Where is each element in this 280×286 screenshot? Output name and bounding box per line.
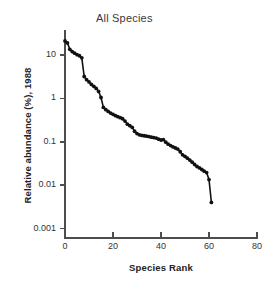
data-point <box>123 119 127 123</box>
data-point <box>97 90 101 94</box>
data-point <box>82 75 86 79</box>
rank-abundance-chart: All Species Relative abundance (%), 1988… <box>0 0 280 286</box>
series-markers-all-species <box>63 39 213 204</box>
data-point <box>66 41 70 45</box>
data-point <box>99 96 103 100</box>
data-point <box>178 150 182 154</box>
data-point <box>205 171 209 175</box>
data-point <box>130 125 134 129</box>
data-point <box>207 178 211 182</box>
series-line-all-species <box>65 41 211 202</box>
data-series-layer <box>0 0 280 286</box>
data-point <box>94 87 98 91</box>
data-point <box>210 201 214 205</box>
data-point <box>80 56 84 60</box>
